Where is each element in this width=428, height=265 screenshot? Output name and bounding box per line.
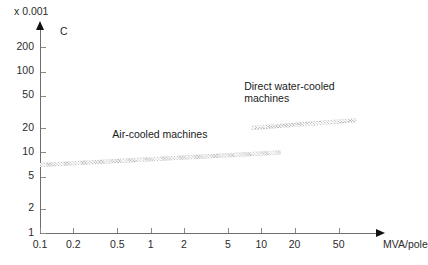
x-axis-tick — [73, 228, 74, 233]
x-axis-tick-label: 2 — [167, 239, 201, 251]
series-annotation-label: Direct water-cooled — [244, 81, 334, 93]
y-axis-tick-label: 50 — [0, 89, 34, 101]
x-axis-tick-label: 50 — [322, 239, 356, 251]
x-axis-tick — [295, 228, 296, 233]
series-annotation-label: Air-cooled machines — [112, 129, 207, 141]
y-axis-tick-label: 100 — [0, 65, 34, 77]
y-axis-tick-label: 5 — [0, 170, 34, 182]
y-axis-tick-label: 200 — [0, 41, 34, 53]
x-axis-tick — [339, 228, 340, 233]
x-axis-tick-label: 5 — [211, 239, 245, 251]
y-axis-multiplier-label: x 0.001 — [14, 6, 48, 18]
y-axis-tick — [41, 128, 46, 129]
y-axis-arrowhead-icon — [36, 21, 44, 30]
y-axis-tick — [41, 209, 46, 210]
y-axis-line — [40, 30, 41, 234]
y-axis-tick — [41, 152, 46, 153]
x-axis-tick — [184, 228, 185, 233]
y-axis-tick — [41, 47, 46, 48]
x-axis-tick — [117, 228, 118, 233]
x-axis-tick-label: 0.2 — [56, 239, 90, 251]
x-axis-line — [40, 233, 378, 234]
y-axis-tick-label: 10 — [0, 146, 34, 158]
y-axis-tick — [41, 233, 46, 234]
y-axis-tick — [41, 96, 46, 97]
y-axis-tick-label: 2 — [0, 202, 34, 214]
x-axis-tick — [40, 228, 41, 233]
y-axis-tick — [41, 177, 46, 178]
series-annotation-label: machines — [244, 93, 289, 105]
x-axis-tick — [151, 228, 152, 233]
y-axis-tick — [41, 72, 46, 73]
x-axis-tick-label: 0.5 — [100, 239, 134, 251]
x-axis-tick-label: 1 — [134, 239, 168, 251]
x-axis-tick — [261, 228, 262, 233]
data-band — [40, 150, 281, 166]
y-axis-symbol-label: C — [60, 26, 68, 38]
x-axis-tick-label: 20 — [278, 239, 312, 251]
y-axis-tick-label: 20 — [0, 122, 34, 134]
x-axis-arrowhead-icon — [376, 229, 385, 237]
y-axis-tick-label: 1 — [0, 227, 34, 239]
x-axis-tick-label: 10 — [244, 239, 278, 251]
x-axis-unit-label: MVA/pole — [383, 239, 428, 251]
x-axis-tick — [228, 228, 229, 233]
data-band — [250, 118, 355, 130]
x-axis-tick-label: 0.1 — [23, 239, 57, 251]
